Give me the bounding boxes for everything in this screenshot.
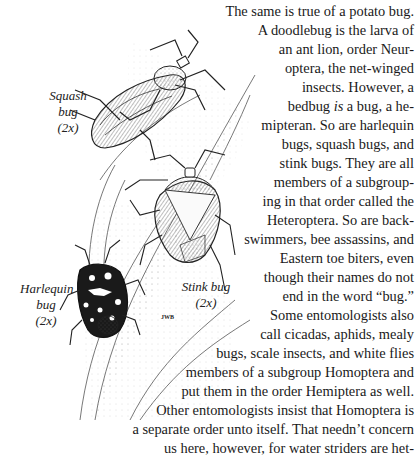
caption-harlequin-bug: Harlequin bug (2x): [20, 281, 72, 329]
text-line: a separate order unto itself. That needn…: [132, 419, 414, 439]
text-line: Some entomologists also: [270, 305, 414, 325]
text-line: A doodlebug is the larva of: [258, 20, 414, 40]
text-line: optera, the net-winged: [285, 58, 414, 78]
text-line: an ant lion, order Neur-: [279, 39, 414, 59]
text-line: us here, however, for water striders are…: [164, 438, 414, 458]
text-line: call cicadas, aphids, mealy: [260, 324, 414, 344]
text-line-italic: bedbug is a bug, a he-: [288, 96, 414, 116]
caption-stink-bug: Stink bug (2x): [176, 279, 236, 311]
caption-scale: (2x): [176, 295, 236, 311]
text-line: though their names do not: [264, 267, 414, 287]
text-segment: a bug, a he-: [343, 98, 414, 114]
text-line: stink bugs. They are all: [280, 153, 414, 173]
text-line: The same is true of a potato bug.: [225, 1, 414, 21]
text-line: Other entomologists insist that Homopter…: [156, 400, 414, 420]
text-line: end in the word “bug.”: [283, 286, 414, 306]
text-line: members of a subgroup Homoptera and: [186, 362, 414, 382]
caption-name: Harlequin: [20, 281, 72, 297]
text-line: insects. However, a: [302, 77, 414, 97]
caption-scale: (2x): [38, 120, 98, 136]
text-line: bugs, scale insects, and white flies: [216, 343, 414, 363]
text-line: swimmers, bee assassins, and: [244, 229, 414, 249]
text-segment: bedbug: [288, 98, 334, 114]
text-line: Eastern toe biters, even: [280, 248, 414, 268]
text-line: put them in the order Hemiptera as well.: [181, 381, 414, 401]
text-line: ing in that order called the: [263, 191, 414, 211]
text-line: mipteran. So are harlequin: [261, 115, 414, 135]
caption-squash-bug: Squash bug (2x): [38, 88, 98, 136]
text-line: Heteroptera. So are back-: [267, 210, 414, 230]
caption-name: Stink bug: [176, 279, 236, 295]
book-page: Squash bug (2x) Stink bug (2x) Harlequin…: [0, 0, 420, 458]
italic-emphasis: is: [334, 98, 344, 114]
caption-scale: (2x): [20, 313, 72, 329]
text-line: members of a subgroup-: [274, 172, 414, 192]
text-line: bugs, squash bugs, and: [282, 134, 414, 154]
caption-name: Squash bug: [38, 88, 98, 120]
caption-name-2: bug: [20, 297, 72, 313]
artist-signature: JWB: [161, 314, 174, 320]
